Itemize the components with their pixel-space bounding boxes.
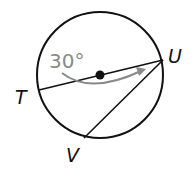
point-label-v: V	[66, 146, 79, 165]
arrowhead-icon	[136, 67, 146, 76]
angle-label: 30°	[49, 51, 84, 71]
chord-uv	[84, 60, 163, 138]
point-label-u: U	[168, 47, 182, 66]
center-point	[96, 71, 105, 80]
point-label-t: T	[15, 88, 27, 107]
circle-diagram	[0, 0, 192, 172]
